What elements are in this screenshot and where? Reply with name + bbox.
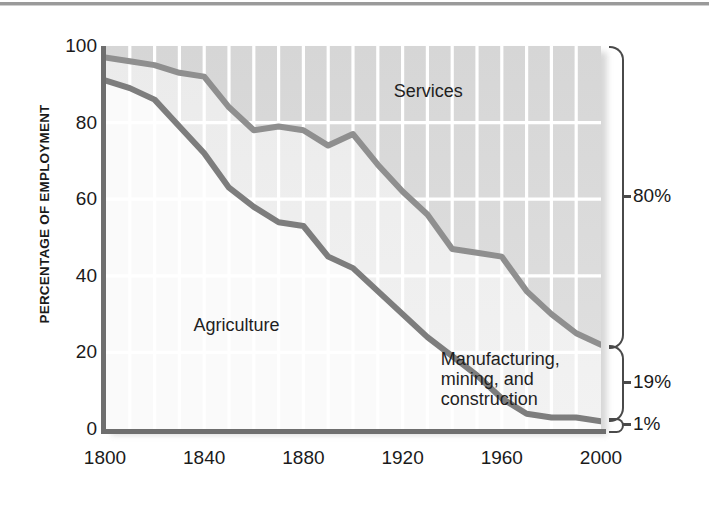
bracket-agriculture [609, 418, 624, 433]
series-label-manufacturing: Manufacturing, mining, and construction [441, 349, 560, 409]
series-label-manufacturing-line2: mining, and [441, 369, 560, 389]
series-label-services: Services [394, 81, 463, 101]
bracket-label-1-percent: 1% [633, 414, 660, 433]
x-tick-label-1960: 1960 [462, 448, 542, 467]
employment-chart-figure: PERCENTAGE OF EMPLOYMENT 100 80 60 40 20… [0, 6, 709, 508]
y-tick-label-60: 60 [51, 189, 97, 208]
x-tick-label-1840: 1840 [164, 448, 244, 467]
y-axis-title: PERCENTAGE OF EMPLOYMENT [37, 114, 52, 324]
series-label-manufacturing-line1: Manufacturing, [441, 349, 560, 369]
y-tick-label-80: 80 [51, 113, 97, 132]
bracket-label-80-percent: 80% [633, 186, 671, 205]
x-tick-label-1920: 1920 [363, 448, 443, 467]
y-tick-label-20: 20 [51, 342, 97, 361]
y-tick-label-40: 40 [51, 266, 97, 285]
chart-screenshot: PERCENTAGE OF EMPLOYMENT 100 80 60 40 20… [0, 0, 709, 508]
plot-area: Services Agriculture Manufacturing, mini… [105, 46, 601, 429]
bracket-agriculture-tick [623, 423, 631, 426]
y-tick-label-100: 100 [51, 36, 97, 55]
y-axis-line [101, 46, 106, 434]
x-tick-label-1880: 1880 [263, 448, 343, 467]
x-tick-label-1800: 1800 [65, 448, 145, 467]
x-tick-label-2000: 2000 [561, 448, 641, 467]
bracket-manufacturing-tick [623, 381, 631, 384]
bracket-label-19-percent: 19% [633, 372, 671, 391]
x-axis-line [101, 429, 606, 434]
bracket-manufacturing [609, 345, 624, 422]
bracket-services-tick [623, 195, 631, 198]
series-label-manufacturing-line3: construction [441, 389, 560, 409]
y-tick-label-0: 0 [51, 419, 97, 438]
series-label-agriculture: Agriculture [193, 315, 279, 335]
bracket-services [609, 46, 624, 349]
